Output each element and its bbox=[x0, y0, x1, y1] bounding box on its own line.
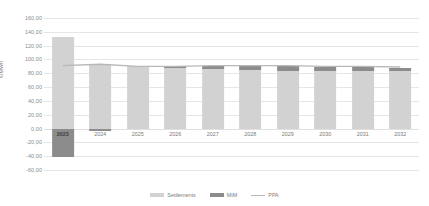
chart-container: €/MWh 160,00140,00120,00100,0080,0060,00… bbox=[0, 0, 429, 206]
y-axis-tick-labels: 160,00140,00120,00100,0080,0060,0040,002… bbox=[0, 18, 42, 170]
legend-item-ppa[interactable]: PPA bbox=[251, 192, 278, 198]
plot-area bbox=[44, 18, 419, 170]
y-tick-label: 60,00 bbox=[0, 84, 42, 90]
chart-legend: SettlementsMtMPPA bbox=[0, 192, 429, 198]
gridline bbox=[44, 170, 419, 171]
y-tick-label: 40,00 bbox=[0, 98, 42, 104]
y-tick-label: -60,00 bbox=[0, 167, 42, 173]
y-tick-label: 0,00 bbox=[0, 126, 42, 132]
legend-swatch bbox=[210, 193, 224, 197]
y-tick-label: -20,00 bbox=[0, 139, 42, 145]
x-tick-label-2027: 2027 bbox=[194, 128, 232, 140]
x-tick-label-2031: 2031 bbox=[344, 128, 382, 140]
ppa-line-series bbox=[44, 18, 419, 170]
y-tick-label: 100,00 bbox=[0, 56, 42, 62]
ppa-line-path bbox=[63, 64, 401, 67]
legend-swatch bbox=[150, 193, 164, 197]
x-tick-label-2032: 2032 bbox=[382, 128, 420, 140]
y-tick-label: 20,00 bbox=[0, 112, 42, 118]
legend-label: PPA bbox=[268, 192, 278, 198]
x-tick-label-2030: 2030 bbox=[307, 128, 345, 140]
legend-item-settlements[interactable]: Settlements bbox=[150, 192, 195, 198]
x-tick-label-2028: 2028 bbox=[232, 128, 270, 140]
y-tick-label: 120,00 bbox=[0, 43, 42, 49]
x-axis-tick-labels: 2023202420252026202720282029203020312032 bbox=[44, 128, 419, 140]
legend-item-mtm[interactable]: MtM bbox=[210, 192, 237, 198]
y-tick-label: 80,00 bbox=[0, 70, 42, 76]
legend-label: MtM bbox=[227, 192, 237, 198]
x-tick-label-2026: 2026 bbox=[157, 128, 195, 140]
y-tick-label: 140,00 bbox=[0, 29, 42, 35]
y-tick-label: 160,00 bbox=[0, 15, 42, 21]
legend-line-marker bbox=[251, 195, 265, 196]
x-tick-label-2025: 2025 bbox=[119, 128, 157, 140]
legend-label: Settlements bbox=[167, 192, 195, 198]
y-tick-label: -40,00 bbox=[0, 153, 42, 159]
x-tick-label-2023: 2023 bbox=[44, 128, 82, 140]
x-tick-label-2029: 2029 bbox=[269, 128, 307, 140]
x-tick-label-2024: 2024 bbox=[82, 128, 120, 140]
